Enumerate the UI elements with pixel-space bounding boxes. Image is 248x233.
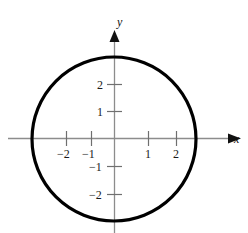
y-tick-label-pos2: 2 [97, 79, 103, 91]
coordinate-plane-figure: −2 −1 1 2 2 1 −1 −2 y x [0, 0, 248, 233]
x-tick-label-pos1: 1 [145, 148, 151, 160]
x-tick-label-neg1: −1 [82, 148, 95, 160]
graph-canvas [0, 0, 248, 233]
x-axis-label: x [234, 133, 239, 145]
y-tick-label-neg2: −2 [89, 189, 102, 201]
y-axis-label: y [117, 16, 122, 28]
x-tick-label-neg2: −2 [57, 148, 70, 160]
y-tick-label-neg1: −1 [89, 161, 102, 173]
x-tick-label-pos2: 2 [173, 148, 179, 160]
y-axis-arrowhead [110, 30, 120, 42]
y-tick-label-pos1: 1 [97, 106, 103, 118]
